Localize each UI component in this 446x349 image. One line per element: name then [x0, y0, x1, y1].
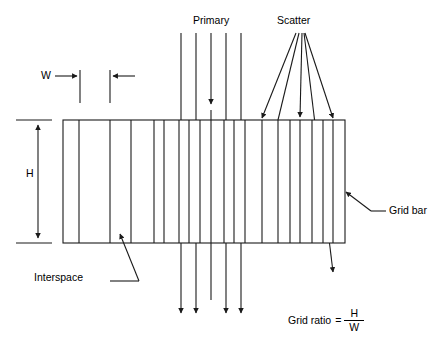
fraction-numerator: H: [345, 308, 363, 320]
gridbar-leader: [346, 192, 386, 211]
ratio-fraction: H W: [344, 308, 364, 332]
h-dimension-label: H: [26, 168, 34, 179]
equals-sign: =: [335, 315, 341, 326]
primary-label: Primary: [193, 15, 229, 26]
diagram-canvas: Primary Scatter W H Interspace Grid bar …: [0, 0, 446, 349]
gridbar-arrow: [346, 192, 371, 211]
w-dimension: [55, 70, 135, 103]
grid-body: [63, 120, 345, 243]
scatter-ray-3: [300, 33, 302, 117]
grid-outline: [63, 120, 345, 243]
w-dimension-label: W: [41, 70, 51, 81]
fraction-denominator: W: [344, 321, 364, 333]
grid-diagram-svg: [0, 0, 446, 349]
grid-ratio-text: Grid ratio: [288, 315, 331, 326]
h-dimension: [16, 120, 52, 243]
interspace-label: Interspace: [34, 272, 83, 283]
grid-bar-label: Grid bar: [389, 205, 427, 216]
grid-ratio-formula: Grid ratio = H W: [288, 308, 364, 332]
scatter-ray-1: [262, 33, 296, 118]
scatter-label: Scatter: [277, 15, 310, 26]
